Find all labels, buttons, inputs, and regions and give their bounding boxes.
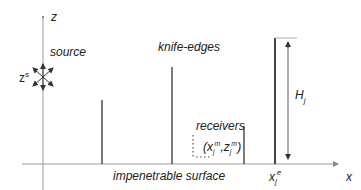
edge-position-label: xje	[268, 168, 282, 186]
receivers-label: receivers	[196, 119, 245, 133]
x-axis-label: x	[345, 170, 353, 184]
knife-edges	[102, 38, 275, 164]
receiver-coordinate-label: (xjm,zjm)	[203, 140, 241, 156]
z-axis-label: z	[50, 10, 57, 24]
height-marker	[275, 38, 297, 159]
surface-label: impenetrable surface	[113, 169, 225, 183]
knife-edges-label: knife-edges	[158, 40, 220, 54]
source-height-label: zs	[19, 70, 29, 85]
height-label: Hj	[295, 88, 306, 105]
diffraction-diagram: z x source zs knife-edges Hj xje receive…	[0, 0, 361, 190]
source-label: source	[50, 45, 86, 59]
source-emitter-icon	[33, 64, 53, 90]
